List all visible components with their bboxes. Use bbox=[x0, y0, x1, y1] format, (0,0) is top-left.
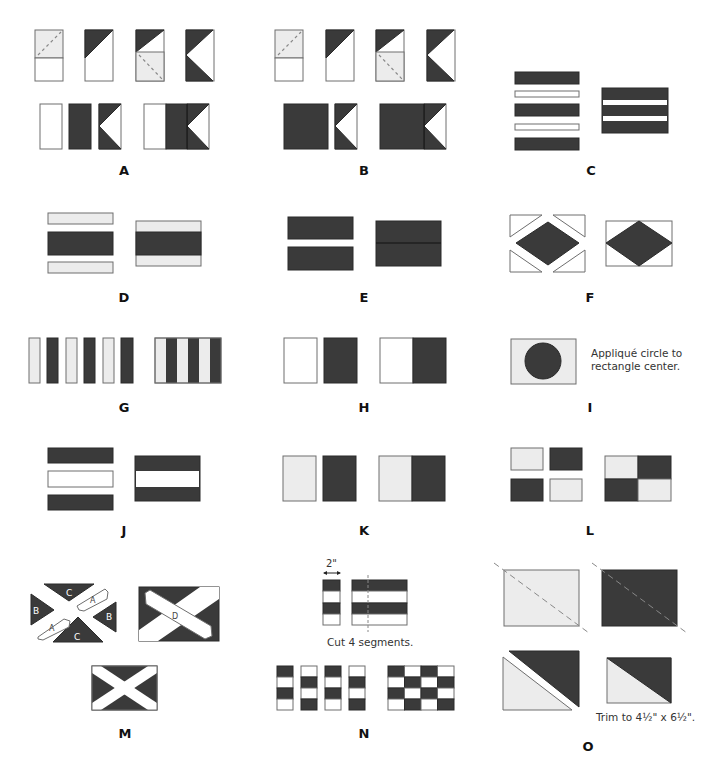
panel-label-o: O bbox=[582, 739, 593, 754]
panel-label-c: C bbox=[586, 163, 596, 178]
piece-label-a: A bbox=[90, 596, 96, 605]
panel-c bbox=[515, 72, 668, 150]
panel-label-i: I bbox=[588, 400, 593, 415]
quilt-block-diagram: .d{fill:#3a3a3a;stroke:#2a2a2a;stroke-wi… bbox=[0, 0, 706, 768]
panel-label-l: L bbox=[586, 523, 594, 538]
panel-d bbox=[48, 213, 201, 273]
piece-label-d: D bbox=[172, 612, 178, 621]
panel-label-k: K bbox=[359, 523, 369, 538]
panel-label-d: D bbox=[119, 290, 130, 305]
panel-k bbox=[283, 456, 445, 501]
panel-label-b: B bbox=[359, 163, 369, 178]
piece-label-c-2: C bbox=[74, 632, 80, 642]
applique-note: Appliqué circle to rectangle center. bbox=[591, 347, 682, 373]
panel-label-j: J bbox=[122, 523, 127, 538]
piece-label-b: B bbox=[33, 606, 39, 616]
panel-b bbox=[275, 30, 455, 149]
applique-note-line2: rectangle center. bbox=[591, 360, 682, 373]
panel-h bbox=[284, 338, 446, 383]
piece-label-b-2: B bbox=[106, 612, 112, 622]
panel-label-a: A bbox=[119, 163, 129, 178]
panel-label-g: G bbox=[119, 400, 130, 415]
panel-j bbox=[48, 448, 200, 510]
panel-i bbox=[511, 339, 576, 384]
panel-label-e: E bbox=[360, 290, 369, 305]
panel-label-f: F bbox=[586, 290, 595, 305]
panel-o bbox=[494, 563, 687, 710]
panel-a bbox=[35, 30, 214, 149]
panel-f bbox=[510, 215, 672, 272]
piece-label-c: C bbox=[66, 588, 72, 598]
panel-e bbox=[288, 217, 441, 270]
panel-m: C B B C A A D bbox=[31, 584, 219, 710]
panel-label-h: H bbox=[359, 400, 370, 415]
cut-segments-note: Cut 4 segments. bbox=[327, 636, 413, 649]
panel-label-n: N bbox=[359, 726, 370, 741]
applique-note-line1: Appliqué circle to bbox=[591, 347, 682, 360]
trim-note: Trim to 4½" x 6½". bbox=[596, 711, 695, 724]
panel-l bbox=[511, 448, 671, 501]
piece-label-a-2: A bbox=[49, 624, 55, 633]
panel-g bbox=[29, 338, 221, 383]
dimension-label: 2" bbox=[326, 557, 337, 570]
panel-label-m: M bbox=[119, 726, 132, 741]
